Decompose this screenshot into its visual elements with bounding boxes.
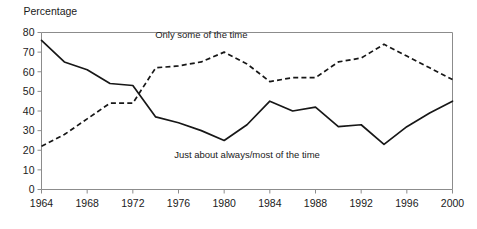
x-tick-label: 1988 [304,197,328,209]
x-tick-label: 1976 [167,197,191,209]
y-tick-label: 70 [23,46,35,58]
y-tick-label: 30 [23,124,35,136]
x-tick-label: 1968 [75,197,99,209]
y-tick-label: 0 [29,183,35,195]
y-tick-label: 50 [23,85,35,97]
y-tick-label: 40 [23,105,35,117]
x-tick-label: 1964 [30,197,54,209]
y-axis-title: Percentage [24,5,78,17]
series-line-just-about-always-most-of-the-time [42,40,453,144]
y-tick-label: 20 [23,144,35,156]
x-tick-label: 1972 [121,197,145,209]
x-tick-label: 1984 [258,197,282,209]
x-tick-label: 1992 [349,197,373,209]
series-line-only-some-of-the-time [42,44,453,146]
x-tick-label: 2000 [441,197,465,209]
series-annotation-1: Just about always/most of the time [174,149,320,160]
y-tick-label: 10 [23,164,35,176]
x-tick-label: 1980 [212,197,236,209]
line-chart: Percentage010203040506070801964196819721… [0,0,477,229]
y-tick-label: 80 [23,26,35,38]
x-tick-label: 1996 [395,197,419,209]
y-tick-label: 60 [23,66,35,78]
series-annotation-0: Only some of the time [155,29,247,40]
chart-container: Percentage010203040506070801964196819721… [0,0,477,229]
